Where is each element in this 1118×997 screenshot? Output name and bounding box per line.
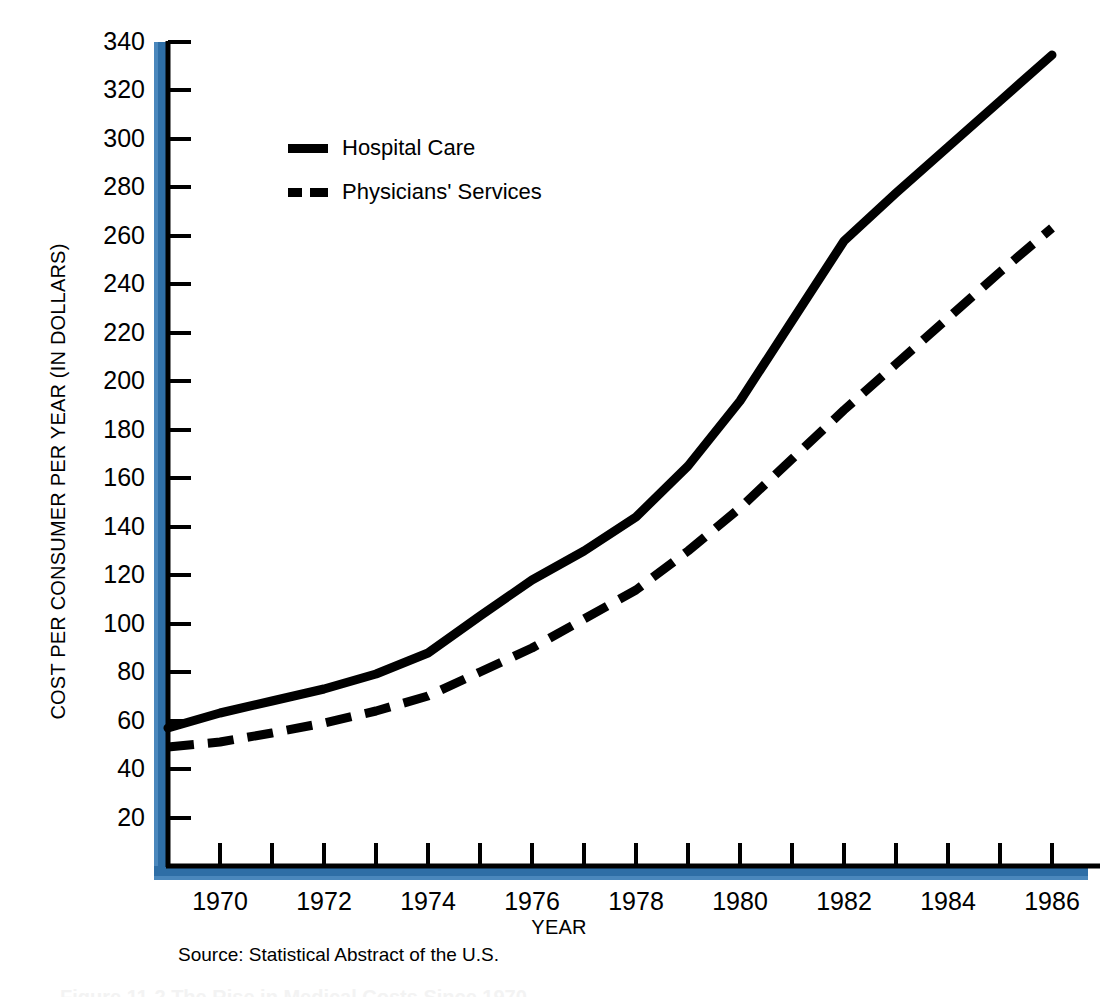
legend-item-label: Hospital Care	[342, 135, 475, 161]
source-note: Source: Statistical Abstract of the U.S.	[178, 944, 499, 966]
x-tick-label: 1972	[264, 889, 384, 914]
chart-figure: COST PER CONSUMER PER YEAR (IN DOLLARS) …	[0, 0, 1118, 997]
x-axis-title: YEAR	[0, 916, 1118, 939]
x-tick-label: 1974	[368, 889, 488, 914]
figure-caption: Figure 11-2 The Rise in Medical Costs Si…	[60, 986, 527, 997]
x-tick-label: 1976	[472, 889, 592, 914]
chart-legend: Hospital Care Physicians' Services	[288, 126, 628, 214]
x-tick-label: 1984	[888, 889, 1008, 914]
legend-item-label: Physicians' Services	[342, 179, 542, 205]
x-tick-label: 1982	[784, 889, 904, 914]
legend-swatch-solid-line-icon	[288, 144, 328, 153]
legend-item-hospital-care: Hospital Care	[288, 126, 628, 170]
x-tick-label: 1970	[160, 889, 280, 914]
x-tick-label: 1978	[576, 889, 696, 914]
legend-item-physicians-services: Physicians' Services	[288, 170, 628, 214]
legend-swatch-dashed-line-icon	[288, 188, 328, 197]
x-tick-label: 1986	[992, 889, 1112, 914]
x-tick-label: 1980	[680, 889, 800, 914]
